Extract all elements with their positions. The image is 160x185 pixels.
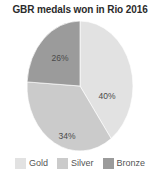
legend-label-silver: Silver [71,158,94,169]
legend-item-gold[interactable]: Gold [15,158,48,169]
pie-label-bronze: 26% [51,53,68,63]
legend-item-silver[interactable]: Silver [57,158,94,169]
pie-chart-svg: 40% 34% 26% [27,21,133,151]
legend-swatch-bronze-icon [103,158,114,169]
legend-label-gold: Gold [29,158,48,169]
legend-swatch-silver-icon [57,158,68,169]
legend-item-bronze[interactable]: Bronze [103,158,146,169]
legend-label-bronze: Bronze [117,158,146,169]
pie-chart-figure: GBR medals won in Rio 2016 40% 34% 26% G… [0,0,160,185]
pie-label-silver: 34% [58,131,75,141]
pie-label-gold: 40% [98,91,115,101]
chart-title: GBR medals won in Rio 2016 [0,4,160,16]
legend-swatch-gold-icon [15,158,26,169]
pie-chart-plot-area: 40% 34% 26% [27,21,133,151]
chart-legend: Gold Silver Bronze [0,158,160,169]
